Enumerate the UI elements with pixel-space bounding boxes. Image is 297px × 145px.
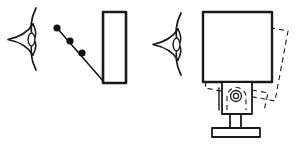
eye-left-pupil	[28, 33, 35, 46]
monitor-stand-post	[230, 114, 241, 129]
diagram-svg	[0, 0, 297, 145]
flat-panel-rectangle	[103, 12, 126, 83]
eye-right-pupil	[173, 38, 180, 51]
sight-line-dot	[66, 37, 73, 44]
diagram-canvas: Eye viewing flat panel and rotating moni…	[0, 0, 297, 145]
monitor-stand-base	[212, 128, 260, 137]
monitor-screen-solid	[203, 12, 272, 82]
sight-line-dot	[78, 49, 85, 56]
sight-line-dot	[53, 24, 60, 31]
